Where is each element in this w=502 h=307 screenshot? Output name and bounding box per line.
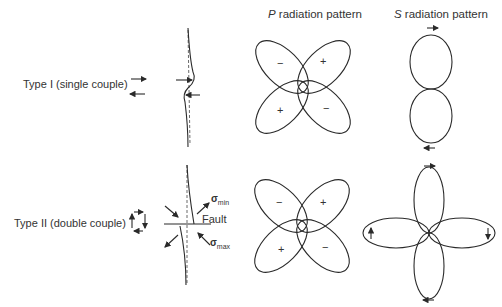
double-couple-icon [132, 212, 145, 231]
type-i-fault-trace [176, 28, 200, 147]
type-ii-fault-diagram [164, 165, 211, 285]
p-pattern-type-ii [246, 171, 359, 282]
type-i-force-arrows [130, 79, 146, 94]
s-pattern-type-ii [363, 166, 495, 300]
p1-sign-upper-right: + [320, 55, 326, 67]
diagram-canvas [0, 0, 502, 307]
s-pattern-type-i [410, 28, 452, 148]
p1-sign-lower-left: + [277, 104, 283, 116]
p1-sign-upper-left: − [277, 57, 283, 69]
p2-sign-lower-left: + [278, 243, 284, 255]
p1-sign-lower-right: − [323, 102, 329, 114]
p-pattern-type-i [247, 32, 360, 143]
p2-sign-upper-right: + [320, 196, 326, 208]
p2-sign-lower-right: − [322, 241, 328, 253]
p2-sign-upper-left: − [276, 196, 282, 208]
